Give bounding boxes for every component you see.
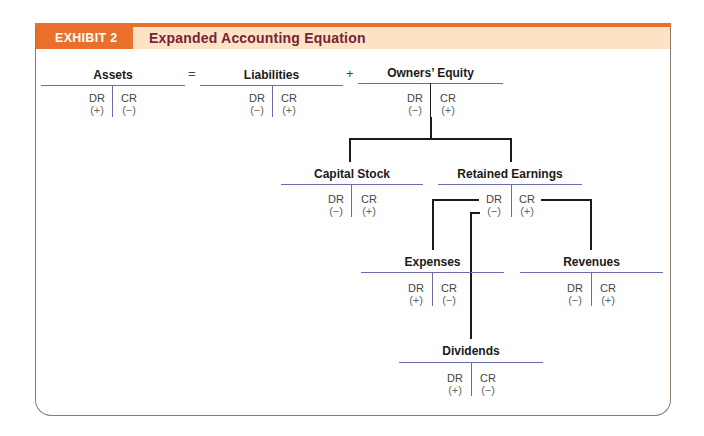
- credit-sign: (+): [596, 294, 620, 307]
- credit-sign: (−): [476, 384, 500, 397]
- credit-sign: (+): [357, 205, 381, 218]
- debit-sign: (−): [403, 104, 427, 117]
- debit-sign: (−): [482, 205, 506, 218]
- credit-sign: (−): [437, 294, 461, 307]
- account-title: Liabilities: [200, 68, 343, 82]
- t-vertical-line: [471, 362, 472, 396]
- account-title: Owners’ Equity: [358, 66, 503, 80]
- t-vertical-line: [351, 184, 352, 217]
- connector-line: [430, 117, 432, 139]
- connector-line: [432, 199, 434, 250]
- connector-line: [432, 199, 479, 201]
- equals-sign: =: [188, 66, 196, 81]
- debit-sign: (+): [404, 294, 428, 307]
- t-vertical-line: [511, 184, 512, 217]
- connector-line: [349, 138, 351, 162]
- debit-sign: (+): [443, 384, 467, 397]
- account-title: Expenses: [361, 255, 504, 269]
- connector-line: [510, 138, 512, 162]
- t-vertical-line: [112, 85, 113, 117]
- credit-sign: (+): [515, 205, 539, 218]
- connector-line: [590, 199, 592, 250]
- debit-sign: (−): [563, 294, 587, 307]
- connector-line: [349, 138, 512, 140]
- account-title: Dividends: [399, 344, 543, 358]
- credit-sign: (+): [436, 104, 460, 117]
- connector-line: [470, 212, 472, 339]
- debit-sign: (+): [85, 104, 109, 117]
- t-vertical-line: [430, 83, 431, 117]
- credit-sign: (+): [277, 104, 301, 117]
- connector-line: [541, 199, 591, 201]
- t-vertical-line: [272, 85, 273, 117]
- account-title: Assets: [41, 68, 185, 82]
- debit-sign: (−): [324, 205, 348, 218]
- t-horizontal-line: [438, 184, 582, 185]
- credit-sign: (−): [117, 104, 141, 117]
- account-title: Retained Earnings: [438, 167, 582, 181]
- account-title: Capital Stock: [281, 167, 423, 181]
- debit-sign: (−): [245, 104, 269, 117]
- t-vertical-line: [432, 272, 433, 306]
- account-title: Revenues: [520, 255, 663, 269]
- t-vertical-line: [591, 272, 592, 306]
- plus-sign: +: [346, 66, 354, 81]
